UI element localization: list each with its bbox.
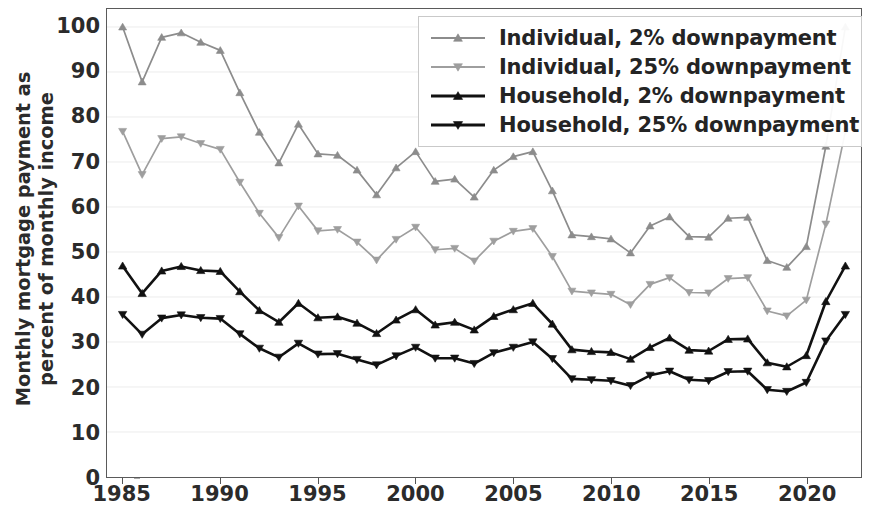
x-tick-mark — [807, 478, 808, 484]
x-tick-label-2015: 2015 — [680, 482, 738, 506]
x-tick-mark — [513, 478, 514, 484]
y-tick-label-20: 20 — [48, 376, 100, 400]
x-tick-label-1990: 1990 — [190, 482, 248, 506]
y-tick-label-100: 100 — [48, 14, 100, 38]
chart-legend: Individual, 2% downpayment Individual, 2… — [418, 16, 862, 147]
y-tick-label-60: 60 — [48, 195, 100, 219]
x-tick-label-2000: 2000 — [386, 482, 444, 506]
legend-swatch-individual-25pct — [429, 56, 487, 78]
legend-swatch-household-25pct — [429, 114, 487, 136]
x-tick-mark — [220, 478, 221, 484]
y-tick-label-40: 40 — [48, 285, 100, 309]
legend-label-individual-2pct: Individual, 2% downpayment — [499, 26, 836, 50]
legend-item-1[interactable]: Individual, 25% downpayment — [429, 52, 851, 81]
legend-item-2[interactable]: Household, 2% downpayment — [429, 81, 851, 110]
legend-label-household-25pct: Household, 25% downpayment — [499, 113, 859, 137]
x-tick-label-2020: 2020 — [778, 482, 836, 506]
x-tick-label-2005: 2005 — [484, 482, 542, 506]
x-tick-label-1985: 1985 — [92, 482, 150, 506]
y-tick-label-70: 70 — [48, 150, 100, 174]
legend-label-household-2pct: Household, 2% downpayment — [499, 84, 845, 108]
x-tick-mark — [318, 478, 319, 484]
x-tick-mark — [122, 478, 123, 484]
y-tick-label-90: 90 — [48, 59, 100, 83]
cropped-top-strip — [0, 0, 869, 6]
x-tick-label-2010: 2010 — [582, 482, 640, 506]
x-tick-label-1995: 1995 — [288, 482, 346, 506]
chart-canvas: Monthly mortgage payment as percent of m… — [0, 0, 869, 514]
y-tick-label-10: 10 — [48, 421, 100, 445]
legend-swatch-individual-2pct — [429, 27, 487, 49]
x-tick-mark — [415, 478, 416, 484]
y-tick-label-50: 50 — [48, 240, 100, 264]
x-tick-mark — [611, 478, 612, 484]
x-tick-mark — [709, 478, 710, 484]
y-tick-label-30: 30 — [48, 330, 100, 354]
y-tick-label-80: 80 — [48, 104, 100, 128]
legend-label-individual-25pct: Individual, 25% downpayment — [499, 55, 851, 79]
y-axis-title-line-1: Monthly mortgage payment as — [12, 72, 35, 407]
legend-item-3[interactable]: Household, 25% downpayment — [429, 110, 851, 139]
y-axis-tick-labels: 0102030405060708090100 — [34, 0, 100, 514]
legend-swatch-household-2pct — [429, 85, 487, 107]
legend-item-0[interactable]: Individual, 2% downpayment — [429, 23, 851, 52]
